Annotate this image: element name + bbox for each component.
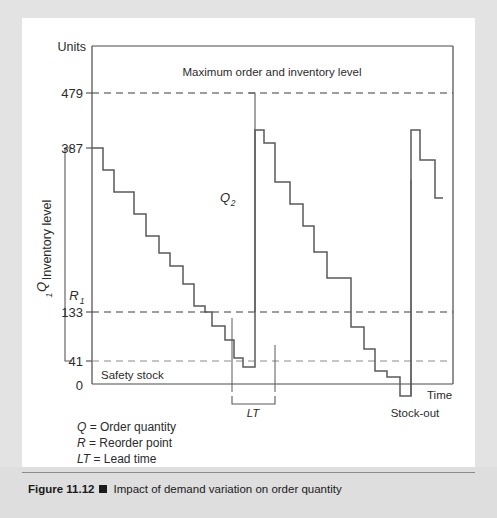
figure-number: Figure 11.12 (28, 483, 94, 495)
q2-label-group: Q 2 (220, 190, 236, 208)
safety-stock-annotation: Safety stock (101, 369, 164, 381)
x-axis-label: Time (427, 389, 452, 401)
q1-label: Q (34, 282, 49, 292)
legend-text-q: = Order quantity (86, 420, 176, 434)
legend-symbol-r: R (77, 436, 86, 450)
figure-container: 479 387 133 41 0 Units Inventory level Q… (0, 0, 497, 518)
stock-out-label: Stock-out (391, 407, 440, 419)
y-axis-unit-label: Units (58, 40, 86, 54)
y-tick-label-387: 387 (61, 141, 83, 156)
y-axis-title: Inventory level (40, 200, 54, 281)
legend-text-lt: = Lead time (90, 452, 157, 466)
max-level-annotation: Maximum order and inventory level (183, 66, 362, 78)
y-tick-label-479: 479 (61, 86, 83, 101)
q2-bracket (249, 93, 255, 312)
r1-label-subscript: 1 (80, 296, 85, 306)
y-tick-label-0: 0 (76, 378, 83, 393)
q1-label-group: Q 1 (34, 282, 54, 297)
legend-row-2: LT = Lead time (77, 452, 157, 466)
legend-row-0: Q = Order quantity (77, 420, 176, 434)
legend-row-1: R = Reorder point (77, 436, 173, 450)
y-tick-label-41: 41 (69, 354, 83, 369)
figure-caption-text: Impact of demand variation on order quan… (113, 483, 341, 495)
square-bullet-icon (99, 485, 107, 493)
lt-bracket (232, 396, 275, 404)
q1-bracket-path (65, 148, 72, 361)
y-tick-marks (86, 93, 92, 361)
caption-divider (22, 472, 475, 473)
q1-label-subscript: 1 (44, 292, 54, 297)
legend-text-r: = Reorder point (86, 436, 173, 450)
inventory-level-series (92, 130, 443, 396)
q2-label: Q (220, 190, 230, 205)
lead-time-label: LT (247, 407, 261, 419)
legend-group: Q = Order quantity R = Reorder point LT … (77, 420, 176, 466)
q2-bracket-path (249, 93, 255, 312)
r1-label: R (69, 288, 78, 303)
q2-label-subscript: 2 (230, 198, 236, 208)
q1-bracket (65, 148, 72, 361)
r1-label-group: R 1 (69, 288, 84, 306)
inventory-chart: 479 387 133 41 0 Units Inventory level Q… (0, 0, 497, 518)
y-tick-label-133: 133 (61, 305, 83, 320)
inventory-step-polyline (92, 130, 443, 396)
figure-caption: Figure 11.12Impact of demand variation o… (28, 481, 468, 497)
legend-symbol-q: Q (77, 420, 86, 434)
